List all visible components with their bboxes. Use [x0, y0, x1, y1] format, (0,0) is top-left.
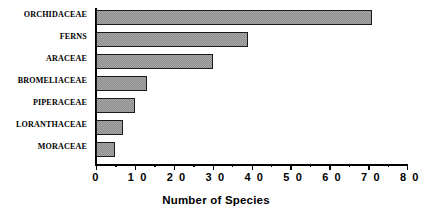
- category-label-araceae: ARACEAE: [0, 55, 87, 63]
- x-tick-minor: [154, 164, 155, 167]
- x-tick-minor: [232, 164, 233, 167]
- x-tick-major: [290, 164, 291, 170]
- bar-ferns: [96, 32, 248, 47]
- x-tick-major: [135, 164, 136, 170]
- category-label-loranthaceae: LORANTHACEAE: [0, 121, 87, 129]
- x-tick-minor: [271, 164, 272, 167]
- category-label-ferns: FERNS: [0, 33, 87, 41]
- x-tick-major: [407, 164, 408, 170]
- category-label-piperaceae: PIPERACEAE: [0, 99, 87, 107]
- category-label-orchidaceae: ORCHIDACEAE: [0, 11, 87, 19]
- x-tick-minor: [349, 164, 350, 167]
- plot-area: [96, 8, 407, 164]
- x-tick-label: 0: [92, 172, 100, 183]
- x-tick-label: 8 0: [400, 172, 420, 183]
- category-axis: ORCHIDACEAE FERNS ARACEAE BROMELIACEAE P…: [0, 8, 91, 164]
- category-label-moraceae: MORACEAE: [0, 143, 87, 151]
- x-tick-major: [96, 164, 97, 170]
- bar-loranthaceae: [96, 120, 123, 135]
- x-tick-major: [252, 164, 253, 170]
- x-tick-label: 5 0: [283, 172, 303, 183]
- x-tick-major: [213, 164, 214, 170]
- bar-bromeliaceae: [96, 76, 147, 91]
- x-tick-major: [368, 164, 369, 170]
- bar-chart: ORCHIDACEAE FERNS ARACEAE BROMELIACEAE P…: [0, 0, 432, 221]
- bar-araceae: [96, 54, 213, 69]
- x-tick-major: [174, 164, 175, 170]
- x-tick-minor: [310, 164, 311, 167]
- x-tick-label: 3 0: [206, 172, 226, 183]
- x-axis-title: Number of Species: [0, 194, 432, 206]
- x-tick-label: 7 0: [361, 172, 381, 183]
- x-tick-minor: [193, 164, 194, 167]
- x-tick-label: 6 0: [322, 172, 342, 183]
- x-tick-label: 1 0: [128, 172, 148, 183]
- x-tick-label: 2 0: [167, 172, 187, 183]
- x-tick-major: [329, 164, 330, 170]
- x-tick-minor: [388, 164, 389, 167]
- x-tick-label: 4 0: [244, 172, 264, 183]
- bar-orchidaceae: [96, 10, 372, 25]
- bar-piperaceae: [96, 98, 135, 113]
- category-label-bromeliaceae: BROMELIACEAE: [0, 77, 87, 85]
- bar-moraceae: [96, 142, 115, 157]
- x-tick-minor: [115, 164, 116, 167]
